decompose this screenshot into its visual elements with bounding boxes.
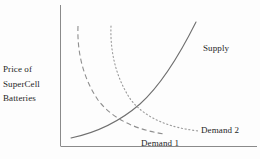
y-axis-label-line-1: Price of bbox=[3, 62, 55, 77]
demand1-curve-label: Demand 1 bbox=[141, 136, 179, 151]
supply-demand-figure: Price of SuperCell Batteries Supply Dema… bbox=[0, 0, 260, 159]
y-axis-label: Price of SuperCell Batteries bbox=[3, 62, 55, 106]
supply-curve-label: Supply bbox=[203, 41, 229, 56]
y-axis-label-line-3: Batteries bbox=[3, 91, 55, 106]
demand2-curve-label: Demand 2 bbox=[201, 123, 239, 138]
y-axis-label-line-2: SuperCell bbox=[3, 77, 55, 92]
supply-curve bbox=[71, 22, 196, 138]
